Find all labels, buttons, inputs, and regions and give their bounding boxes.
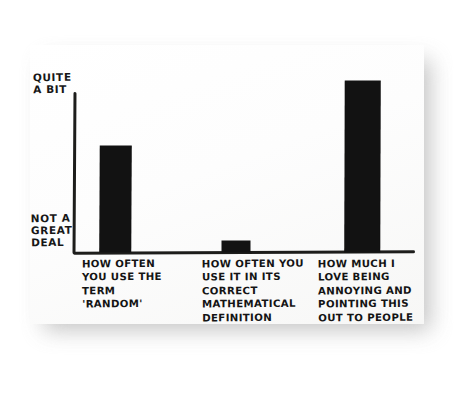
screenshot-canvas: QUITE A BIT NOT A GREAT DEAL HOW OFTEN Y… — [0, 0, 454, 404]
bar-correct-definition — [222, 241, 250, 252]
bar-annoying-pointing-out — [345, 81, 380, 252]
y-axis-bottom-label: NOT A GREAT DEAL — [31, 213, 73, 249]
y-axis-top-label: QUITE A BIT — [33, 72, 72, 96]
bar-random-term — [100, 146, 131, 252]
photographed-chart-card: QUITE A BIT NOT A GREAT DEAL HOW OFTEN Y… — [30, 45, 424, 324]
category-label-correct-definition: HOW OFTEN YOU USE IT IN ITS CORRECT MATH… — [202, 257, 328, 324]
category-label-annoying-pointing-out: HOW MUCH I LOVE BEING ANNOYING AND POINT… — [318, 257, 424, 324]
category-label-random-term: HOW OFTEN YOU USE THE TERM 'RANDOM' — [82, 257, 197, 311]
